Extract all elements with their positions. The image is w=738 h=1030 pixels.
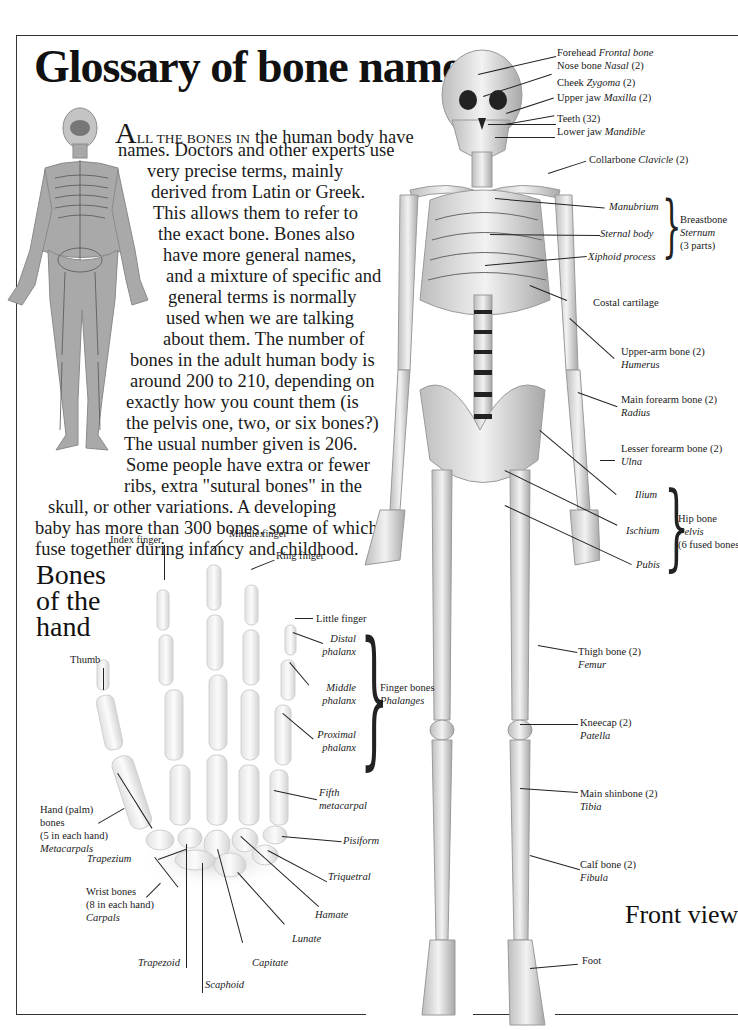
label-sternal-body: Sternal body [600,227,653,240]
label-capitate: Capitate [252,956,288,969]
leader-line [488,124,556,125]
label-ilium: Ilium [635,488,657,501]
label-finger-bones: Finger bones Phalanges [380,681,435,707]
intro-line: derived from Latin or Greek. [151,181,365,203]
intro-line: the exact bone. Bones also [158,223,355,245]
leader-line [202,863,203,993]
label-ischium: Ischium [626,524,659,537]
label-upper-jaw: Upper jaw Maxilla (2) [557,91,651,104]
label-radius: Main forearm bone (2) Radius [621,393,717,419]
leader-line [186,844,187,968]
intro-line: names. Doctors and other experts use [118,139,394,161]
intro-line: used when we are talking [166,307,354,329]
label-breastbone: Breastbone Sternum (3 parts) [680,213,727,252]
leader-line [600,460,615,461]
intro-line: general terms is normally [168,286,357,308]
label-lunate: Lunate [292,932,321,945]
label-lower-jaw: Lower jaw Mandible [557,125,645,138]
intro-line: Some people have extra or fewer [126,454,370,476]
intro-line: and a mixture of specific and [166,265,381,287]
intro-line: baby has more than 300 bones, some of wh… [35,517,378,539]
front-view-caption: Front view [625,900,738,930]
brace-sternum: } [662,192,681,260]
frame-top-rule [16,35,738,36]
label-middle-finger: Middle finger [229,527,287,540]
label-carpals: Wrist bones (8 in each hand) Carpals [86,885,154,924]
intro-line: around 200 to 210, depending on [130,370,375,392]
intro-line: This allows them to refer to [153,202,358,224]
label-costal-cartilage: Costal cartilage [593,296,659,309]
label-teeth: Teeth (32) [557,112,600,125]
label-xiphoid-process: Xiphoid process [588,250,656,263]
leader-line [164,545,165,580]
label-femur: Thigh bone (2) Femur [578,645,641,671]
label-tibia: Main shinbone (2) Tibia [580,787,658,813]
label-manubrium: Manubrium [609,200,659,213]
label-thumb: Thumb [70,653,100,666]
intro-line: skull, or other variations. A developing [48,496,336,518]
label-patella: Kneecap (2) Patella [580,716,632,742]
hand-bones-illustration [95,560,310,890]
label-fifth-metacarpal: Fifth metacarpal [319,786,367,812]
label-distal-phalanx: Distalphalanx [318,632,356,658]
label-forehead: Forehead Frontal bone [557,46,653,59]
label-foot: Foot [582,954,601,967]
label-ring-finger: Ring finger [276,549,324,562]
label-little-finger: Little finger [316,612,366,625]
label-fibula: Calf bone (2) Fibula [580,858,636,884]
label-hamate: Hamate [315,908,348,921]
label-scaphoid: Scaphoid [205,978,244,991]
label-proximal-phalanx: Proximalphalanx [310,728,356,754]
label-trapezoid: Trapezoid [138,956,180,969]
label-hip-bone: Hip bone Pelvis (6 fused bones) [678,512,738,551]
intro-line: bones in the adult human body is [130,349,375,371]
leader-line [103,668,104,690]
intro-line: the pelvis one, two, or six bones?) [126,412,379,434]
label-triquetral: Triquetral [328,870,371,883]
intro-line: The usual number given is 206. [124,433,357,455]
label-nose-bone: Nose bone Nasal (2) [557,59,644,72]
leader-line [295,618,313,619]
label-pisiform: Pisiform [343,834,379,847]
label-middle-phalanx: Middlephalanx [316,681,356,707]
label-cheek: Cheek Zygoma (2) [557,76,635,89]
label-pubis: Pubis [636,558,660,571]
label-collarbone: Collarbone Clavicle (2) [589,153,688,166]
label-ulna: Lesser forearm bone (2) Ulna [621,442,722,468]
frame-bottom-rule [16,1014,366,1015]
intro-line: ribs, extra "sutural bones" in the [124,475,362,497]
label-metacarpals: Hand (palm) bones (5 in each hand) Metac… [40,803,108,855]
leader-line [495,137,555,138]
intro-line: have more general names, [163,244,356,266]
label-humerus: Upper-arm bone (2) Humerus [621,345,705,371]
label-trapezium: Trapezium [87,852,131,865]
skeleton-front-view [360,40,600,1030]
intro-line: exactly how you count them (is [126,391,359,413]
label-index-finger: Index finger [110,533,162,546]
intro-line: very precise terms, mainly [147,160,343,182]
intro-line: about them. The number of [163,328,365,350]
leader-line [520,724,578,725]
